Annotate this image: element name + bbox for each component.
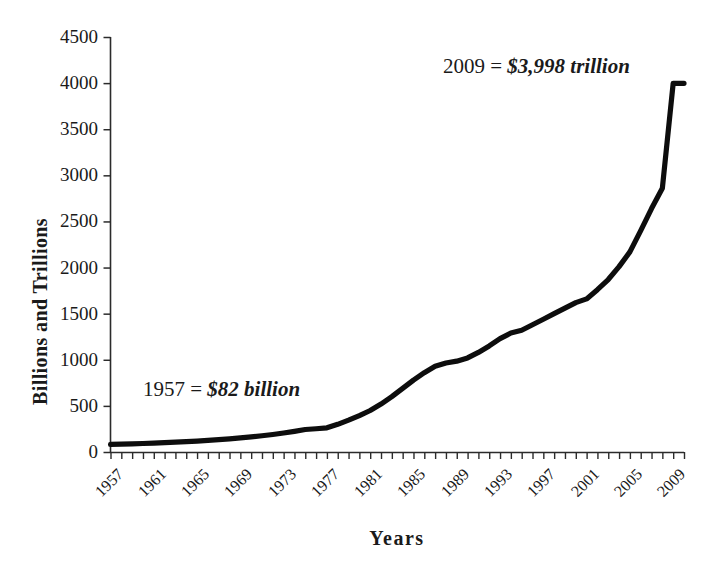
x-axis-tick-label: 1997 bbox=[513, 466, 558, 511]
annotation-start-value: 1957 = $82 billion bbox=[143, 378, 300, 401]
x-axis-tick-label: 1985 bbox=[384, 466, 429, 511]
x-axis-tick-label: 1965 bbox=[167, 466, 212, 511]
x-axis-tick-label: 2001 bbox=[557, 466, 602, 511]
annotation-start-lead: 1957 = bbox=[143, 377, 207, 401]
x-axis-tick-label: 1993 bbox=[470, 466, 515, 511]
annotation-start-amount: $82 billion bbox=[207, 377, 300, 401]
x-axis-tick-label: 1961 bbox=[124, 466, 169, 511]
annotation-end-lead: 2009 = bbox=[443, 54, 507, 78]
x-axis-tick-label: 1989 bbox=[427, 466, 472, 511]
x-axis-title: Years bbox=[110, 527, 684, 550]
annotation-end-amount: $3,998 trillion bbox=[507, 54, 630, 78]
x-axis-tick-label: 1977 bbox=[297, 466, 342, 511]
x-axis-tick-label: 1981 bbox=[340, 466, 385, 511]
x-axis-tick-label: 2009 bbox=[643, 466, 688, 511]
x-axis-tick-label: 1973 bbox=[254, 466, 299, 511]
x-axis-tick-label: 1969 bbox=[210, 466, 255, 511]
annotation-end-value: 2009 = $3,998 trillion bbox=[443, 55, 630, 78]
chart-figure: Billions and Trillions 05001000150020002… bbox=[0, 0, 718, 578]
x-axis-tick-label: 2005 bbox=[600, 466, 645, 511]
x-axis-tick-labels: 1957196119651969197319771981198519891993… bbox=[0, 0, 718, 578]
x-axis-tick-label: 1957 bbox=[81, 466, 126, 511]
